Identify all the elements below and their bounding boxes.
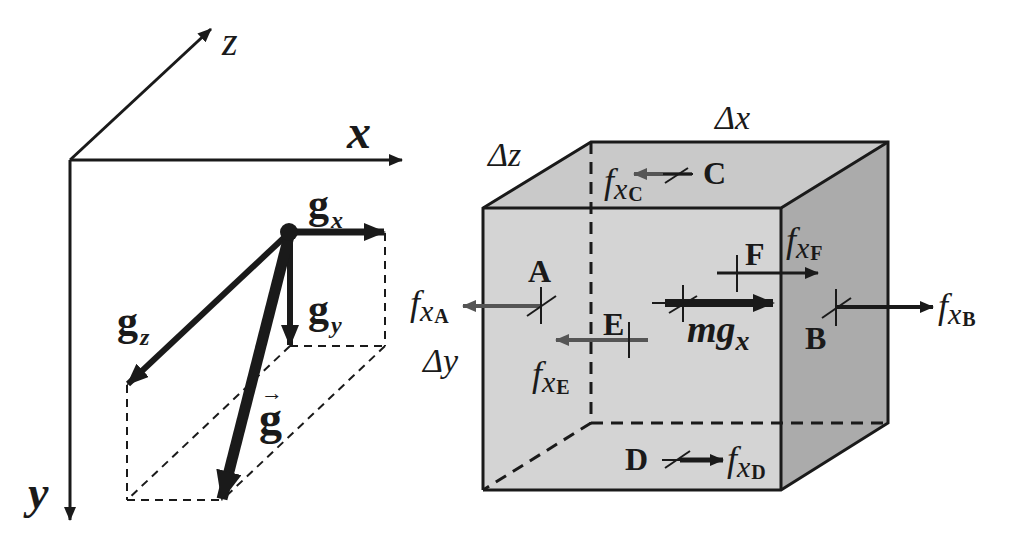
fxA-sub2: A	[434, 305, 448, 327]
point-e-label: E	[603, 308, 624, 340]
gy-label: gy	[308, 288, 342, 337]
fxB-base: f	[938, 286, 948, 326]
gy-base: g	[308, 286, 329, 332]
fxE-label: fxE	[532, 356, 570, 397]
point-d-label: D	[625, 443, 648, 475]
g-vector-arrow	[222, 232, 290, 499]
y-axis-label: y	[28, 470, 48, 516]
z-axis-label: z	[222, 22, 238, 62]
fxA-base: f	[410, 283, 420, 323]
mgx-base: mg	[687, 308, 736, 350]
gz-sub: z	[140, 324, 149, 350]
gx-sub: x	[331, 207, 343, 233]
fluid-element-cube	[483, 142, 888, 490]
point-a-label: A	[528, 255, 551, 287]
x-axis-label: x	[347, 108, 371, 156]
fxB-sub1: x	[948, 297, 961, 330]
fxD-sub2: D	[751, 461, 765, 483]
point-b-label: B	[805, 322, 826, 354]
point-f-label: F	[745, 238, 765, 270]
fxA-label: fxA	[410, 285, 449, 326]
gravity-vectors	[128, 223, 384, 499]
fxF-sub1: x	[796, 231, 809, 264]
z-axis	[70, 29, 211, 160]
fxA-sub1: x	[420, 294, 433, 327]
gx-label: gx	[308, 183, 343, 232]
fxF-sub2: F	[810, 242, 822, 264]
fxD-sub1: x	[737, 450, 750, 483]
fxB-label: fxB	[938, 288, 976, 329]
gx-base: g	[308, 181, 329, 227]
dimension-dz-label: Δz	[488, 138, 521, 172]
fxD-base: f	[727, 439, 737, 479]
gy-sub: y	[331, 312, 342, 338]
g-vector-label: →g	[259, 396, 282, 442]
point-c-label: C	[703, 157, 726, 189]
fxD-label: fxD	[727, 441, 766, 482]
fxE-base: f	[532, 354, 542, 394]
fxC-base: f	[604, 161, 614, 201]
fxC-sub1: x	[614, 172, 627, 205]
gravity-origin-dot	[280, 223, 298, 241]
dimension-dy-label: Δy	[423, 344, 458, 378]
fxC-label: fxC	[604, 163, 643, 204]
fxF-label: fxF	[786, 222, 823, 263]
vector-arrow-icon: →	[261, 382, 283, 404]
fxE-sub2: E	[556, 376, 569, 398]
fxC-sub2: C	[628, 183, 642, 205]
fxB-sub2: B	[962, 308, 975, 330]
fxE-sub1: x	[542, 365, 555, 398]
fluid-element-force-diagram	[0, 0, 1015, 536]
mgx-sub: x	[736, 325, 750, 356]
dimension-dx-label: Δx	[715, 101, 750, 135]
gz-base: g	[117, 298, 138, 344]
fxF-base: f	[786, 220, 796, 260]
gz-label: gz	[117, 300, 149, 349]
mgx-label: mgx	[687, 310, 750, 355]
